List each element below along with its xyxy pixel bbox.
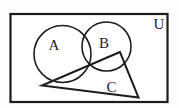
set-diagram: A B C U bbox=[0, 0, 179, 108]
diagram-canvas: A B C U bbox=[0, 0, 179, 108]
universal-set-label: U bbox=[154, 16, 165, 32]
set-c-label: C bbox=[106, 79, 116, 95]
set-b-label: B bbox=[99, 35, 109, 51]
set-a-label: A bbox=[49, 37, 60, 53]
